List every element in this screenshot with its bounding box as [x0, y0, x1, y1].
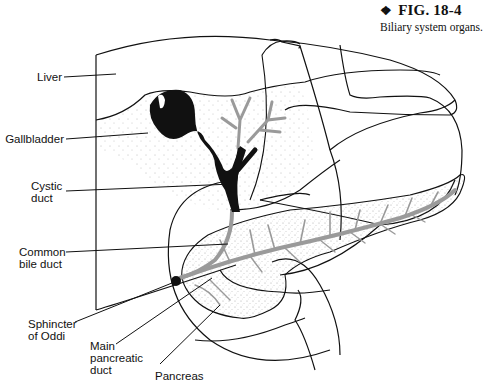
label-liver: Liver	[10, 71, 62, 83]
biliary-diagram: ❖FIG. 18-4 Biliary system organs. Liver …	[0, 0, 488, 390]
label-main-pancreatic-duct: Main pancreatic duct	[90, 340, 143, 376]
label-sphincter-of-oddi: Sphincter of Oddi	[28, 318, 77, 342]
figure-caption: ❖FIG. 18-4 Biliary system organs.	[380, 2, 483, 33]
label-cystic-duct: Cystic duct	[31, 180, 62, 204]
figure-number: ❖FIG. 18-4	[380, 2, 483, 19]
label-gallbladder: Gallbladder	[2, 133, 64, 145]
label-common-bile-duct: Common bile duct	[19, 246, 66, 270]
diamond-bullet-icon: ❖	[380, 3, 392, 18]
label-pancreas: Pancreas	[155, 370, 204, 382]
liver-stipple	[96, 82, 313, 212]
figure-subtitle: Biliary system organs.	[380, 21, 483, 33]
sphincter-dot	[171, 276, 181, 286]
